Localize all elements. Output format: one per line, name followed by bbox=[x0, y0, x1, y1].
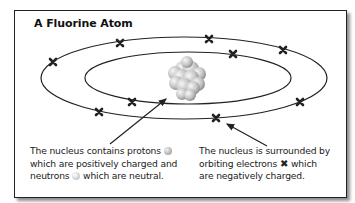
electron-icon bbox=[297, 99, 303, 105]
electron-caption: The nucleus is surrounded by orbiting el… bbox=[199, 145, 355, 183]
nucleus-caption-line1: The nucleus contains protons bbox=[30, 145, 161, 156]
electron-pointer-arrow bbox=[227, 124, 267, 146]
nucleus-caption-line3-prefix: neutrons bbox=[30, 170, 70, 181]
electron-icon bbox=[50, 59, 56, 65]
nucleus-caption-line3-suffix: which are neutral. bbox=[83, 170, 164, 181]
nucleus-caption: The nucleus contains protons which are p… bbox=[30, 145, 190, 183]
electron-caption-line1: The nucleus is surrounded by bbox=[199, 145, 330, 156]
electron-x-icon: ✖ bbox=[280, 158, 288, 171]
nucleus-pointer-arrow bbox=[110, 99, 166, 144]
proton-icon bbox=[164, 147, 172, 155]
electron-icon bbox=[206, 36, 212, 42]
neutron-icon bbox=[72, 172, 80, 180]
electron-caption-line2-prefix: orbiting electrons bbox=[199, 158, 277, 169]
nucleus-caption-line2: which are positively charged and bbox=[30, 158, 177, 169]
nucleus bbox=[168, 56, 206, 101]
electron-caption-line2-suffix: which bbox=[291, 158, 317, 169]
electron-caption-line3: are negatively charged. bbox=[199, 170, 305, 181]
